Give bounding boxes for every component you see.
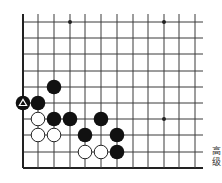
black-stone-disc bbox=[110, 128, 125, 143]
black-stone bbox=[110, 128, 125, 143]
black-stone bbox=[16, 96, 31, 111]
star-point bbox=[162, 117, 166, 121]
black-stone-disc bbox=[78, 128, 93, 143]
white-stone-disc bbox=[47, 128, 61, 142]
white-stone bbox=[94, 145, 108, 159]
white-stone bbox=[47, 128, 61, 142]
white-stone-disc bbox=[31, 128, 45, 142]
black-stone-disc bbox=[31, 96, 46, 111]
white-stone bbox=[78, 145, 92, 159]
black-stone-disc bbox=[47, 80, 62, 95]
white-stone bbox=[31, 112, 45, 126]
black-stone bbox=[78, 128, 93, 143]
black-stone bbox=[47, 80, 62, 95]
white-stone-disc bbox=[78, 145, 92, 159]
black-stone-disc bbox=[94, 112, 109, 127]
black-stone-disc bbox=[16, 96, 31, 111]
black-stone-disc bbox=[63, 112, 78, 127]
white-stone bbox=[31, 128, 45, 142]
star-point bbox=[162, 20, 166, 24]
go-board bbox=[0, 0, 222, 183]
star-point bbox=[68, 20, 72, 24]
side-caption-char-1: 高 bbox=[212, 146, 222, 156]
black-stone-disc bbox=[47, 112, 62, 127]
black-stone bbox=[31, 96, 46, 111]
white-stone-disc bbox=[94, 145, 108, 159]
black-stone bbox=[47, 112, 62, 127]
black-stone-disc bbox=[110, 145, 125, 160]
white-stone-disc bbox=[31, 112, 45, 126]
black-stone bbox=[63, 112, 78, 127]
side-caption-char-2: 级 bbox=[212, 157, 222, 167]
black-stone bbox=[110, 145, 125, 160]
black-stone bbox=[94, 112, 109, 127]
